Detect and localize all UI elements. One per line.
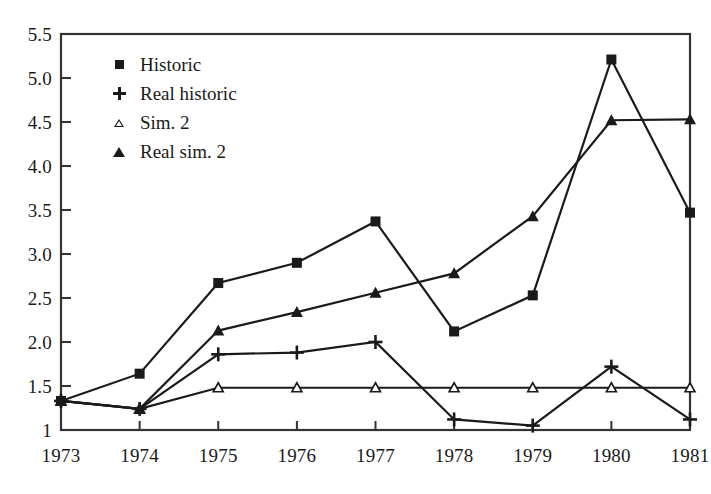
legend-item[interactable]: Sim. 2 <box>108 108 237 137</box>
y-axis-tick-label: 2.0 <box>0 333 52 352</box>
y-axis-tick-label: 5.5 <box>0 25 52 44</box>
chart-figure: 5.55.04.54.03.53.02.52.01.51 19731974197… <box>0 0 711 494</box>
legend-item[interactable]: Real sim. 2 <box>108 137 237 166</box>
y-axis-tick-label: 3.5 <box>0 201 52 220</box>
data-point-marker <box>211 347 225 361</box>
y-axis-ticks <box>61 78 71 386</box>
chart-legend: Historic Real historic Sim. 2 Real sim. … <box>108 50 237 166</box>
x-axis-tick-label: 1980 <box>592 446 631 465</box>
y-axis-tick-label: 4.5 <box>0 113 52 132</box>
y-axis-tick-label: 1 <box>0 421 52 440</box>
filled-triangle-icon <box>108 147 130 157</box>
data-point-marker <box>135 369 145 379</box>
y-axis-tick-label: 2.5 <box>0 289 52 308</box>
plus-icon <box>108 87 130 100</box>
x-axis-tick-label: 1975 <box>199 446 238 465</box>
filled-square-icon <box>108 60 130 69</box>
data-point-marker <box>683 412 697 426</box>
x-axis-tick-label: 1977 <box>356 446 395 465</box>
x-axis-tick-label: 1979 <box>513 446 552 465</box>
data-point-marker <box>371 216 381 226</box>
legend-item-label: Real sim. 2 <box>130 142 226 161</box>
y-axis-tick-label: 5.0 <box>0 69 52 88</box>
data-point-marker <box>606 55 616 65</box>
x-axis-tick-label: 1976 <box>277 446 316 465</box>
data-point-marker <box>292 258 302 268</box>
data-point-marker <box>685 208 695 218</box>
data-point-marker <box>290 346 304 360</box>
data-point-marker <box>528 290 538 300</box>
x-axis-tick-label: 1974 <box>120 446 159 465</box>
x-axis-tick-label: 1978 <box>435 446 474 465</box>
legend-item-label: Historic <box>130 55 201 74</box>
y-axis-tick-label: 1.5 <box>0 377 52 396</box>
y-axis-tick-label: 3.0 <box>0 245 52 264</box>
data-point-marker <box>213 278 223 288</box>
chart-plot-area <box>0 0 711 494</box>
x-axis-tick-label: 1981 <box>671 446 710 465</box>
data-point-marker <box>449 326 459 336</box>
legend-item-label: Sim. 2 <box>130 113 190 132</box>
x-axis-ticks <box>140 421 612 430</box>
legend-item-label: Real historic <box>130 84 237 103</box>
legend-item[interactable]: Historic <box>108 50 237 79</box>
legend-item[interactable]: Real historic <box>108 79 237 108</box>
open-triangle-icon <box>108 119 130 127</box>
y-axis-tick-label: 4.0 <box>0 157 52 176</box>
x-axis-tick-label: 1973 <box>42 446 81 465</box>
